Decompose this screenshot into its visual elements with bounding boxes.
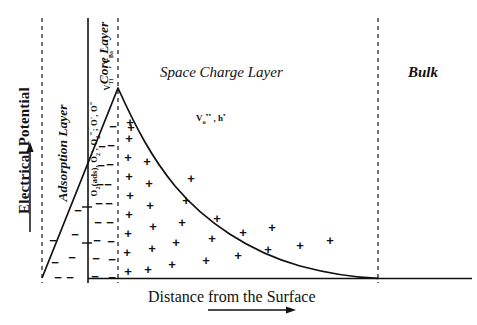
negative-charge-symbol: − bbox=[104, 178, 112, 191]
positive-charge-symbol: + bbox=[144, 263, 152, 276]
y-axis-label: Electrical Potential bbox=[16, 51, 33, 251]
positive-charge-symbol: + bbox=[126, 189, 134, 202]
negative-charge-symbol: − bbox=[106, 158, 114, 171]
positive-charge-symbol: + bbox=[234, 249, 242, 262]
region-label-space-charge: Space Charge Layer bbox=[160, 64, 283, 81]
positive-charge-symbol: + bbox=[202, 254, 210, 267]
positive-charge-symbol: + bbox=[182, 194, 190, 207]
positive-charge-symbol: + bbox=[124, 151, 132, 164]
positive-charge-symbol: + bbox=[123, 246, 131, 259]
positive-charge-symbol: + bbox=[172, 236, 180, 249]
negative-charge-symbol: − bbox=[74, 204, 82, 217]
positive-charge-symbol: + bbox=[143, 155, 151, 168]
region-label-adsorption: Adsorption Layer bbox=[55, 88, 71, 218]
positive-charge-symbol: + bbox=[145, 177, 153, 190]
positive-charge-symbol: + bbox=[239, 226, 247, 239]
negative-charge-symbol: − bbox=[51, 256, 59, 269]
figure-canvas: Electrical Potential Adsorption Layer O2… bbox=[0, 0, 477, 325]
negative-charge-symbol: − bbox=[106, 216, 114, 229]
negative-charge-symbol: − bbox=[71, 228, 79, 241]
negative-charge-symbol: − bbox=[108, 253, 116, 266]
x-axis-label: Distance from the Surface bbox=[148, 288, 315, 306]
positive-charge-symbol: + bbox=[296, 239, 304, 252]
negative-charge-symbol: − bbox=[68, 251, 76, 264]
positive-charge-symbol: + bbox=[125, 208, 133, 221]
positive-charge-symbol: + bbox=[187, 172, 195, 185]
negative-charge-symbol: − bbox=[108, 271, 116, 284]
negative-charge-symbol: − bbox=[95, 197, 103, 210]
negative-charge-symbol: − bbox=[49, 234, 57, 247]
positive-charge-symbol: + bbox=[268, 221, 276, 234]
positive-charge-symbol: + bbox=[208, 232, 216, 245]
region-label-bulk: Bulk bbox=[408, 64, 438, 81]
region-species-space-charge: Vo•• , h• bbox=[196, 111, 226, 125]
positive-charge-symbol: + bbox=[148, 242, 156, 255]
negative-charge-symbol: − bbox=[54, 271, 62, 284]
negative-charge-symbol: − bbox=[96, 178, 104, 191]
positive-charge-symbol: + bbox=[146, 199, 154, 212]
region-species-core: VTi′′′′ , VBa′′ bbox=[100, 34, 113, 104]
negative-charge-symbol: − bbox=[94, 216, 102, 229]
negative-charge-symbol: − bbox=[66, 271, 74, 284]
x-axis-arrow-icon bbox=[208, 306, 296, 313]
positive-charge-symbol: + bbox=[264, 243, 272, 256]
positive-charge-symbol: + bbox=[124, 265, 132, 278]
positive-charge-symbol: + bbox=[124, 227, 132, 240]
positive-charge-symbol: + bbox=[326, 234, 334, 247]
negative-charge-symbol: − bbox=[93, 234, 101, 247]
negative-charge-symbol: − bbox=[105, 197, 113, 210]
positive-charge-symbol: + bbox=[127, 121, 135, 134]
positive-charge-symbol: + bbox=[178, 216, 186, 229]
negative-charge-symbol: − bbox=[107, 139, 115, 152]
negative-charge-symbol: − bbox=[92, 252, 100, 265]
negative-charge-symbol: − bbox=[107, 235, 115, 248]
negative-charge-symbol: − bbox=[98, 140, 106, 153]
negative-charge-symbol: − bbox=[97, 159, 105, 172]
negative-charge-symbol: − bbox=[91, 270, 99, 283]
positive-charge-symbol: + bbox=[168, 258, 176, 271]
negative-charge-symbol: − bbox=[109, 120, 117, 133]
positive-charge-symbol: + bbox=[149, 220, 157, 233]
positive-charge-symbol: + bbox=[125, 170, 133, 183]
positive-charge-symbol: + bbox=[213, 212, 221, 225]
